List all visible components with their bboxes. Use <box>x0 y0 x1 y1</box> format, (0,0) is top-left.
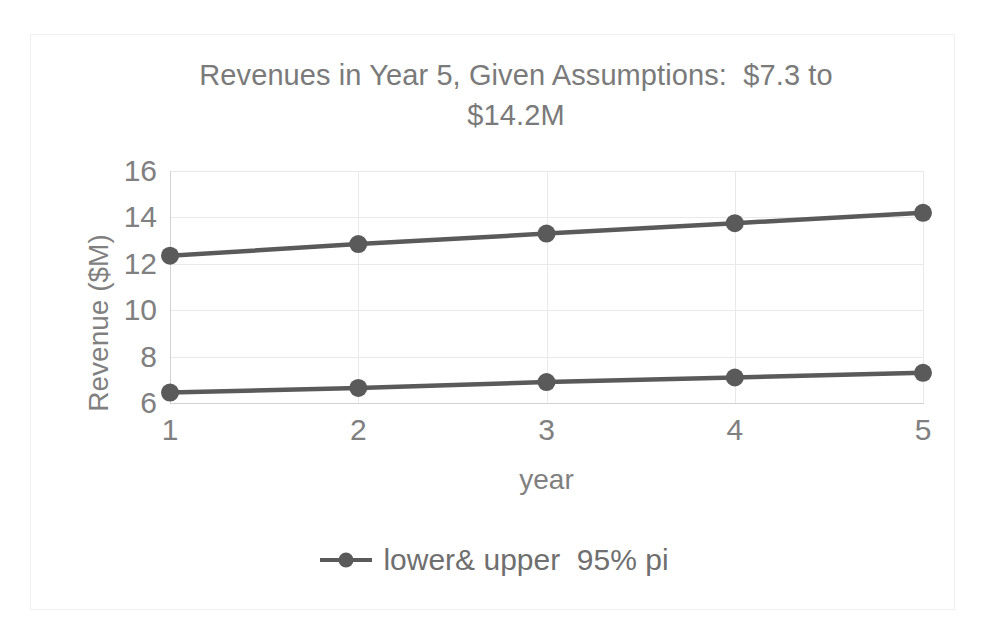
legend-line-marker-icon <box>318 549 374 571</box>
data-point-marker <box>914 204 932 222</box>
chart-legend: lower& upper 95% pi <box>0 543 987 577</box>
data-point-marker <box>538 225 556 243</box>
data-point-marker <box>914 364 932 382</box>
data-point-marker <box>726 214 744 232</box>
data-point-marker <box>726 369 744 387</box>
data-point-marker <box>161 384 179 402</box>
data-point-marker <box>538 373 556 391</box>
legend-label: lower& upper 95% pi <box>383 543 668 577</box>
data-point-marker <box>349 379 367 397</box>
data-point-marker <box>161 247 179 265</box>
data-point-marker <box>349 235 367 253</box>
